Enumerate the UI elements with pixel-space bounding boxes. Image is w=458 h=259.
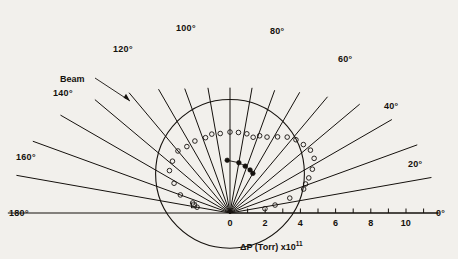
x-tick-label-6: 6 — [333, 218, 338, 228]
x-tick-label-0: 0 — [227, 218, 232, 228]
angle-label-120deg: 120° — [113, 44, 133, 54]
angle-label-100deg: 100° — [176, 23, 196, 33]
angle-label-80deg: 80° — [270, 26, 285, 36]
angle-label-180deg: 180° — [9, 208, 29, 218]
angle-label-60deg: 60° — [338, 54, 353, 64]
beam-label: Beam — [60, 74, 85, 84]
x-axis-caption-exponent: 11 — [296, 240, 303, 247]
x-axis-caption: ΔP (Torr) x1011 — [240, 240, 303, 252]
x-tick-label-4: 4 — [298, 218, 303, 228]
angle-label-40deg: 40° — [384, 101, 399, 111]
x-tick-label-8: 8 — [368, 218, 373, 228]
angle-label-20deg: 20° — [408, 159, 423, 169]
angle-label-0deg: 0° — [436, 208, 445, 218]
x-tick-label-2: 2 — [263, 218, 268, 228]
x-axis-caption-text: ΔP (Torr) x10 — [240, 242, 296, 252]
x-tick-label-10: 10 — [401, 218, 411, 228]
angle-label-140deg: 140° — [53, 88, 73, 98]
angle-label-160deg: 160° — [16, 152, 36, 162]
